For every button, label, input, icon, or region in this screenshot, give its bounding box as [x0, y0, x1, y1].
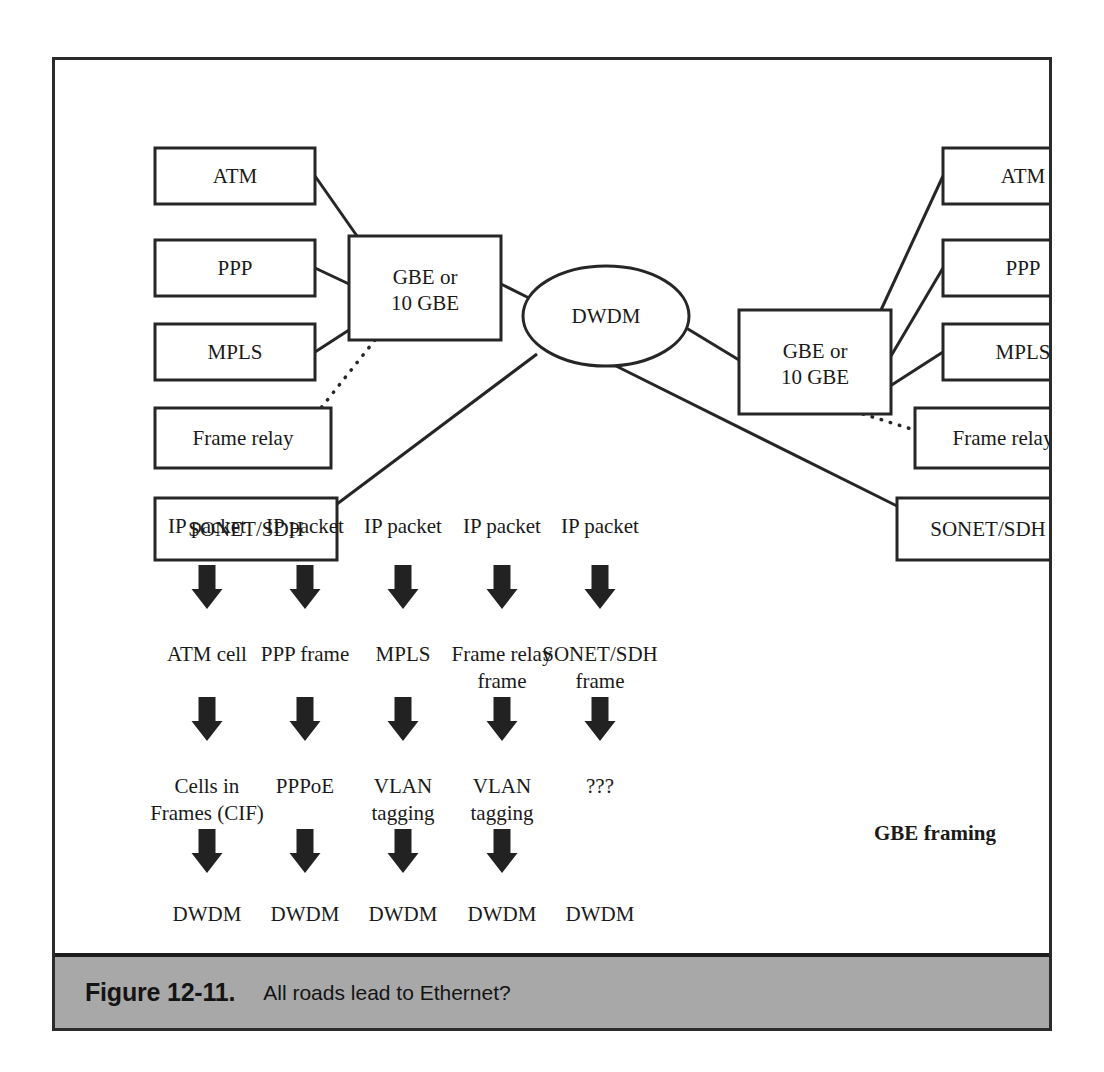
frame-relay-column-step-3-line1: VLAN [473, 774, 531, 798]
ppp-column-step-2: PPP frame [261, 642, 349, 666]
ppp-column-step-4: DWDM [271, 902, 340, 926]
network-and-flow-diagram: ATMPPPMPLSFrame relaySONET/SDHGBE or10 G… [55, 60, 1049, 955]
frame-relay-column-arrow-3 [487, 829, 518, 873]
sonet-sdh-column-arrow-1 [585, 565, 616, 609]
diagram-canvas: ATMPPPMPLSFrame relaySONET/SDHGBE or10 G… [55, 60, 1049, 955]
link-right-ppp [891, 268, 943, 356]
down-arrow-icon [290, 565, 321, 609]
atm-column-step-4: DWDM [173, 902, 242, 926]
atm-column-step-2: ATM cell [167, 642, 247, 666]
left-box-frame-relay-label: Frame relay [193, 426, 294, 450]
figure-caption-number: Figure 12-11. [85, 978, 235, 1007]
mpls-column-arrow-3 [388, 829, 419, 873]
frame-relay-column-step-2-line2: frame [478, 669, 527, 693]
left-box-mpls-label: MPLS [208, 340, 263, 364]
sonet-sdh-column-step-2-line1: SONET/SDH [542, 642, 658, 666]
right-box-atm[interactable]: ATM [943, 148, 1049, 204]
mpls-column-arrow-2 [388, 697, 419, 741]
link-left-mpls [315, 330, 349, 352]
ppp-column-arrow-2 [290, 697, 321, 741]
figure-caption-bar: Figure 12-11. All roads lead to Ethernet… [55, 953, 1049, 1028]
atm-column-arrow-3 [192, 829, 223, 873]
atm-column-arrow-2 [192, 697, 223, 741]
frame-relay-column-arrow-1 [487, 565, 518, 609]
down-arrow-icon [388, 829, 419, 873]
dwdm-ellipse[interactable]: DWDM [523, 266, 689, 366]
sonet-sdh-column-step-3: ??? [586, 774, 614, 798]
link-left-atm [315, 176, 357, 236]
link-left-gbe-to-dwdm [501, 284, 529, 298]
sonet-sdh-column-step-1: IP packet [561, 514, 639, 538]
atm-column-arrow-1 [192, 565, 223, 609]
frame-relay-column-step-3-line2: tagging [471, 801, 534, 825]
right-box-frame-relay-label: Frame relay [953, 426, 1049, 450]
down-arrow-icon [585, 565, 616, 609]
left-box-frame-relay[interactable]: Frame relay [155, 408, 331, 468]
left-box-mpls[interactable]: MPLS [155, 324, 315, 380]
down-arrow-icon [192, 565, 223, 609]
left-box-atm-label: ATM [213, 164, 258, 188]
atm-column-step-3-line2: Frames (CIF) [150, 801, 264, 825]
link-right-mpls [887, 352, 943, 388]
left-aggregator-box-label-line2: 10 GBE [391, 291, 459, 315]
left-box-ppp-label: PPP [217, 256, 252, 280]
frame-relay-column-arrow-2 [487, 697, 518, 741]
link-left-ppp [315, 268, 349, 284]
mpls-column-step-3-line1: VLAN [374, 774, 432, 798]
left-box-ppp[interactable]: PPP [155, 240, 315, 296]
link-right-dwdm-to-gbe [683, 326, 739, 360]
ppp-column-arrow-1 [290, 565, 321, 609]
atm-column-step-1: IP packet [168, 514, 246, 538]
mpls-column-step-3-line2: tagging [372, 801, 435, 825]
down-arrow-icon [487, 565, 518, 609]
right-box-ppp-label: PPP [1005, 256, 1040, 280]
mpls-column-step-4: DWDM [369, 902, 438, 926]
left-aggregator-box-label-line1: GBE or [393, 265, 458, 289]
right-box-mpls-label: MPLS [996, 340, 1049, 364]
ppp-column-step-3: PPPoE [276, 774, 334, 798]
link-right-frame-relay [863, 414, 921, 432]
sonet-sdh-column-step-4: DWDM [566, 902, 635, 926]
down-arrow-icon [192, 697, 223, 741]
frame-relay-column-step-1: IP packet [463, 514, 541, 538]
figure-frame: ATMPPPMPLSFrame relaySONET/SDHGBE or10 G… [52, 57, 1052, 1031]
frame-relay-column-step-2-line1: Frame relay [452, 642, 553, 666]
ppp-column-arrow-3 [290, 829, 321, 873]
right-box-atm-label: ATM [1001, 164, 1046, 188]
protocol-boxes-layer: ATMPPPMPLSFrame relaySONET/SDHGBE or10 G… [155, 148, 1049, 560]
left-box-atm[interactable]: ATM [155, 148, 315, 204]
dwdm-ellipse-label: DWDM [572, 304, 641, 328]
down-arrow-icon [585, 697, 616, 741]
right-box-ppp[interactable]: PPP [943, 240, 1049, 296]
down-arrow-icon [290, 829, 321, 873]
down-arrow-icon [290, 697, 321, 741]
right-box-mpls[interactable]: MPLS [943, 324, 1049, 380]
down-arrow-icon [487, 697, 518, 741]
sonet-sdh-column-arrow-2 [585, 697, 616, 741]
frame-relay-column-step-4: DWDM [468, 902, 537, 926]
sonet-sdh-column-step-2-line2: frame [576, 669, 625, 693]
flow-chart-layer: IP packetATM cellCells inFrames (CIF)DWD… [150, 514, 996, 926]
mpls-column-step-2: MPLS [376, 642, 431, 666]
gbe-framing-annotation: GBE framing [874, 821, 996, 845]
mpls-column-step-1: IP packet [364, 514, 442, 538]
right-aggregator-box[interactable]: GBE or10 GBE [739, 310, 891, 414]
figure-caption-text: All roads lead to Ethernet? [263, 981, 511, 1005]
mpls-column-arrow-1 [388, 565, 419, 609]
ppp-column-step-1: IP packet [266, 514, 344, 538]
down-arrow-icon [487, 829, 518, 873]
right-aggregator-box-label-line2: 10 GBE [781, 365, 849, 389]
right-box-sonet-sdh[interactable]: SONET/SDH [897, 498, 1049, 560]
link-left-sonet [337, 354, 537, 504]
right-aggregator-box-label-line1: GBE or [783, 339, 848, 363]
right-box-frame-relay[interactable]: Frame relay [915, 408, 1049, 468]
link-left-frame-relay [321, 340, 375, 408]
down-arrow-icon [192, 829, 223, 873]
link-right-atm [881, 176, 943, 310]
right-box-sonet-sdh-label: SONET/SDH [930, 517, 1046, 541]
left-aggregator-box[interactable]: GBE or10 GBE [349, 236, 501, 340]
down-arrow-icon [388, 697, 419, 741]
down-arrow-icon [388, 565, 419, 609]
atm-column-step-3-line1: Cells in [175, 774, 240, 798]
